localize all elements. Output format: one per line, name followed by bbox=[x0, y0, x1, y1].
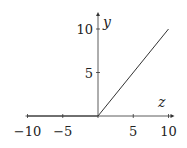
x-axis-arrow bbox=[171, 114, 175, 118]
y-tick-label: 10 bbox=[76, 22, 93, 37]
y-axis-arrow bbox=[96, 12, 100, 16]
chart: −10−5510510zy bbox=[0, 0, 187, 148]
x-tick-label: −5 bbox=[53, 124, 72, 139]
x-axis-label: z bbox=[157, 94, 166, 110]
x-tick-label: 10 bbox=[160, 124, 177, 139]
x-tick-label: −10 bbox=[14, 124, 41, 139]
labels: −10−5510510zy bbox=[14, 14, 177, 139]
axes bbox=[26, 12, 175, 118]
x-tick-label: 5 bbox=[129, 124, 137, 139]
y-tick-label: 5 bbox=[85, 66, 93, 81]
y-axis-label: y bbox=[102, 14, 112, 30]
